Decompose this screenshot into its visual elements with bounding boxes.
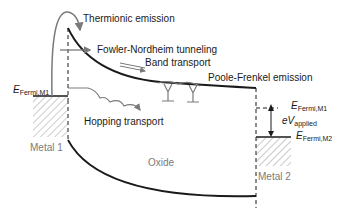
label-band: Band transport [145,58,211,68]
label-fermi-m1-right: EFermi,M1 [291,101,327,112]
metal1-block [33,96,68,137]
label-oxide: Oxide [148,158,174,168]
label-fermi-m2: EFermi,M2 [296,131,332,142]
label-fowler: Fowler-Nordheim tunneling [97,45,217,55]
hopping-arrow [68,88,140,110]
label-metal2: Metal 2 [258,172,291,182]
label-applied: eVapplied [282,116,317,127]
valence-band-edge [68,140,256,196]
label-thermionic: Thermionic emission [83,14,175,24]
label-hopping: Hopping transport [84,117,164,127]
label-poole: Poole-Frenkel emission [208,73,313,83]
thermionic-arrow [52,12,80,96]
label-fermi-m1-left: EFermi,M1 [13,85,49,96]
label-metal1: Metal 1 [30,143,63,153]
metal2-block [256,137,291,166]
